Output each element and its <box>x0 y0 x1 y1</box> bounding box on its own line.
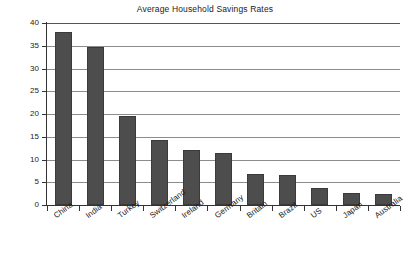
bar-china <box>55 32 72 205</box>
bar-india <box>87 47 104 205</box>
bar-us <box>311 188 328 205</box>
y-tick-label: 20 <box>15 110 39 118</box>
x-tick-mark <box>240 206 241 211</box>
chart-title: Average Household Savings Rates <box>0 4 410 14</box>
plot-area <box>47 23 400 205</box>
x-tick-mark <box>207 206 208 211</box>
x-tick-mark <box>368 206 369 211</box>
gridline <box>47 23 400 24</box>
x-tick-mark <box>143 206 144 211</box>
x-tick-label-us: US <box>309 206 323 220</box>
x-tick-mark <box>336 206 337 211</box>
bar-germany <box>215 153 232 205</box>
y-tick-label: 30 <box>15 65 39 73</box>
y-tick-label: 10 <box>15 156 39 164</box>
bar-turkey <box>119 116 136 205</box>
y-tick-label: 40 <box>15 19 39 27</box>
y-tick-label: 25 <box>15 87 39 95</box>
bar-switzerland <box>151 140 168 205</box>
y-tick-label: 35 <box>15 42 39 50</box>
x-tick-mark <box>111 206 112 211</box>
x-tick-mark <box>79 206 80 211</box>
x-tick-mark <box>304 206 305 211</box>
bar-chart: Average Household Savings Rates % of Hou… <box>0 0 410 267</box>
x-tick-mark <box>272 206 273 211</box>
x-tick-mark <box>400 206 401 211</box>
y-tick-label: 0 <box>15 201 39 209</box>
x-tick-mark <box>47 206 48 211</box>
bar-ireland <box>183 150 200 205</box>
y-tick-label: 15 <box>15 133 39 141</box>
x-tick-mark <box>175 206 176 211</box>
y-axis-label: % of Household Income <box>3 0 15 41</box>
y-tick-label: 5 <box>15 178 39 186</box>
